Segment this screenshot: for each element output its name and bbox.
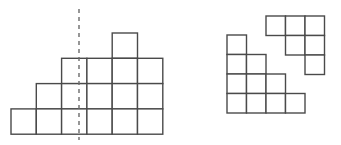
- staircase-cell-r3-c2: [266, 94, 286, 114]
- lshape-cell-r1-c1: [286, 36, 306, 56]
- lshape-cell-r0-c1: [286, 16, 306, 36]
- pyramid-cell-r3-c0: [36, 109, 61, 134]
- pyramid-cell-r1-c2: [87, 58, 112, 83]
- l-shape-piece: [266, 16, 325, 75]
- staircase-cell-r1-c1: [247, 55, 267, 75]
- pyramid-cell-r1-c4: [138, 58, 163, 83]
- staircase-cell-r2-c0: [227, 74, 247, 94]
- staircase-cell-r2-c1: [247, 74, 267, 94]
- pyramid-cell-r3-c-1: [11, 109, 36, 134]
- pyramid-cell-r3-c3: [112, 109, 137, 134]
- figure-canvas: [0, 0, 341, 145]
- lshape-cell-r0-c0: [266, 16, 286, 36]
- pyramid-cell-r3-c2: [87, 109, 112, 134]
- pyramid-cell-r1-c3: [112, 58, 137, 83]
- lshape-cell-r2-c2: [305, 55, 325, 75]
- staircase-cell-r3-c0: [227, 94, 247, 114]
- pyramid-cell-r2-c2: [87, 84, 112, 109]
- staircase-cell-r2-c2: [266, 74, 286, 94]
- staircase-cell-r3-c3: [286, 94, 306, 114]
- pyramid-cell-r2-c0: [36, 84, 61, 109]
- pyramid-cell-r1-c1: [62, 58, 87, 83]
- pyramid-cell-r2-c3: [112, 84, 137, 109]
- pyramid-cell-r2-c4: [138, 84, 163, 109]
- pyramid-cell-r0-c3: [112, 33, 137, 58]
- staircase-cell-r1-c0: [227, 55, 247, 75]
- pyramid-cell-r2-c1: [62, 84, 87, 109]
- lshape-cell-r1-c2: [305, 36, 325, 56]
- pyramid-cell-r3-c4: [138, 109, 163, 134]
- lshape-cell-r0-c2: [305, 16, 325, 36]
- grid-figures-drawing: [0, 0, 341, 145]
- grid-figures-svg-wrapper: [0, 0, 341, 145]
- staircase-cell-r0-c0: [227, 35, 247, 55]
- pyramid-cell-r3-c1: [62, 109, 87, 134]
- staircase-cell-r3-c1: [247, 94, 267, 114]
- left-figure: [11, 33, 163, 134]
